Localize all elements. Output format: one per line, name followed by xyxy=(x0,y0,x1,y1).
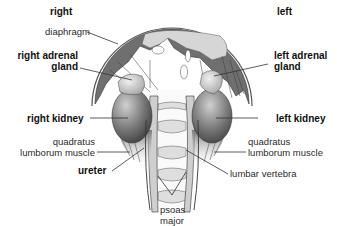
right-adrenal-gland-label-line1: right adrenal xyxy=(12,50,78,61)
left-kidney-label: left kidney xyxy=(276,113,325,124)
lumbar-vertebrae xyxy=(155,90,187,210)
right-adrenal-gland-label: right adrenal gland xyxy=(12,50,78,72)
ureter-label: ureter xyxy=(78,165,106,176)
right-quadratus-lumborum-label: quadratus lumborum muscle xyxy=(8,136,95,158)
right-quadratus-label-line1: quadratus xyxy=(8,136,95,147)
left-adrenal-gland-label-line2: gland xyxy=(274,61,327,72)
diaphragm-label: diaphragm xyxy=(45,26,90,37)
psoas-major-label-line2: major xyxy=(160,215,184,226)
psoas-major-label-line1: psoas xyxy=(160,204,184,215)
right-adrenal-gland-label-line2: gland xyxy=(12,61,78,72)
right-quadratus-label-line2: lumborum muscle xyxy=(8,147,95,158)
left-quadratus-label-line1: quadratus xyxy=(248,136,323,147)
orientation-right-label: right xyxy=(50,6,72,17)
right-adrenal-gland xyxy=(118,74,145,95)
left-quadratus-lumborum-label: quadratus lumborum muscle xyxy=(248,136,323,158)
left-quadratus-label-line2: lumborum muscle xyxy=(248,147,323,158)
right-kidney-label: right kidney xyxy=(27,113,84,124)
lumbar-vertebra-label: lumbar vertebra xyxy=(230,168,297,179)
left-adrenal-gland-label-line1: left adrenal xyxy=(274,50,327,61)
left-adrenal-gland-label: left adrenal gland xyxy=(274,50,327,72)
orientation-left-label: left xyxy=(277,6,292,17)
psoas-major-label: psoas major xyxy=(160,204,184,226)
